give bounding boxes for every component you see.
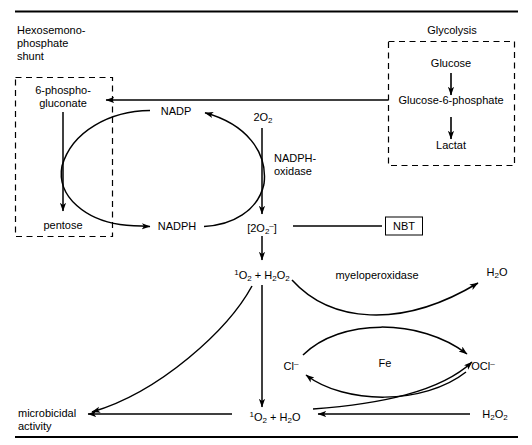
nbt-label: NBT	[393, 220, 415, 232]
label-singlet-oxygen-and-peroxide: 1O2 + H2O2	[234, 266, 289, 285]
section-title-left: Hexosemono- phosphate shunt	[17, 24, 85, 63]
chloride-symbol: Cl	[284, 360, 294, 372]
label-myeloperoxidase: myeloperoxidase	[335, 269, 418, 282]
label-hypochlorite: OCl–	[471, 357, 494, 373]
chloride-charge: –	[294, 359, 298, 368]
hypochlorite-charge: –	[490, 359, 494, 368]
arc-chloride-to-hypochlorite	[303, 327, 467, 355]
label-chloride: Cl–	[284, 357, 299, 373]
label-glucose: Glucose	[431, 57, 471, 70]
arc-outcome-to-hypochlorite	[313, 362, 472, 409]
arc-peroxide-to-water	[292, 280, 478, 315]
oxygen-count: 2O	[253, 111, 268, 123]
superoxide-open: [2O	[247, 222, 265, 234]
cycle-arc-left-up	[61, 111, 150, 225]
outcome-o: O	[254, 411, 263, 423]
label-nadph-oxidase: NADPH- oxidase	[274, 152, 316, 178]
peroxide-o2: O	[277, 269, 286, 281]
arc-peroxide-to-microbicidal	[92, 286, 252, 412]
outcome-plus-h: + H	[267, 411, 287, 423]
section-title-right: Glycolysis	[427, 24, 477, 37]
outcome-water-o: O	[292, 411, 301, 423]
hypochlorite-symbol: OCl	[471, 360, 490, 372]
water-h: H	[487, 266, 495, 278]
peroxide-plus-h: + H	[252, 269, 272, 281]
label-6-phosphogluconate: 6-phospho- gluconate	[35, 84, 91, 110]
label-pentose: pentose	[43, 219, 82, 232]
label-iron: Fe	[379, 357, 392, 370]
nbt-reagent-box: NBT	[385, 217, 423, 236]
label-molecular-oxygen: 2O2	[253, 111, 272, 127]
label-hydrogen-peroxide-input: H2O2	[482, 408, 507, 424]
label-singlet-oxygen-and-water: 1O2 + H2O	[250, 408, 301, 427]
water-o: O	[499, 266, 508, 278]
label-superoxide: [2O2–]	[247, 219, 277, 238]
input-peroxide-o: O	[495, 408, 504, 420]
label-nadph: NADPH	[158, 220, 197, 233]
peroxide-o2-sub: 2	[285, 274, 289, 283]
input-peroxide-h: H	[482, 408, 490, 420]
oxygen-subscript: 2	[268, 116, 272, 125]
superoxide-close: ]	[274, 222, 277, 234]
label-microbicidal-activity: microbicidal activity	[18, 407, 76, 433]
input-peroxide-o-sub: 2	[503, 413, 507, 422]
peroxide-o: O	[239, 269, 248, 281]
biochemical-pathway-figure: Hexosemono- phosphate shunt Glycolysis 6…	[0, 0, 532, 445]
label-glucose-6-phosphate: Glucose-6-phosphate	[398, 94, 503, 107]
label-nadp: NADP	[161, 105, 192, 118]
label-lactat: Lactat	[436, 139, 466, 152]
arc-hypochlorite-to-chloride	[306, 372, 466, 397]
cycle-arc-to-nadph	[120, 225, 150, 227]
label-water: H2O	[487, 266, 508, 282]
